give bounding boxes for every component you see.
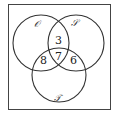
- set-s-label: 𝒮: [71, 18, 81, 28]
- region-o-s-t: 7: [55, 50, 62, 63]
- region-o-s: 3: [55, 34, 62, 47]
- venn-diagram: 𝒪 𝒮 𝒯 3 8 7 6: [0, 0, 116, 115]
- set-o-label: 𝒪: [34, 19, 42, 29]
- region-s-t: 6: [70, 54, 77, 67]
- region-o-t: 8: [40, 54, 47, 67]
